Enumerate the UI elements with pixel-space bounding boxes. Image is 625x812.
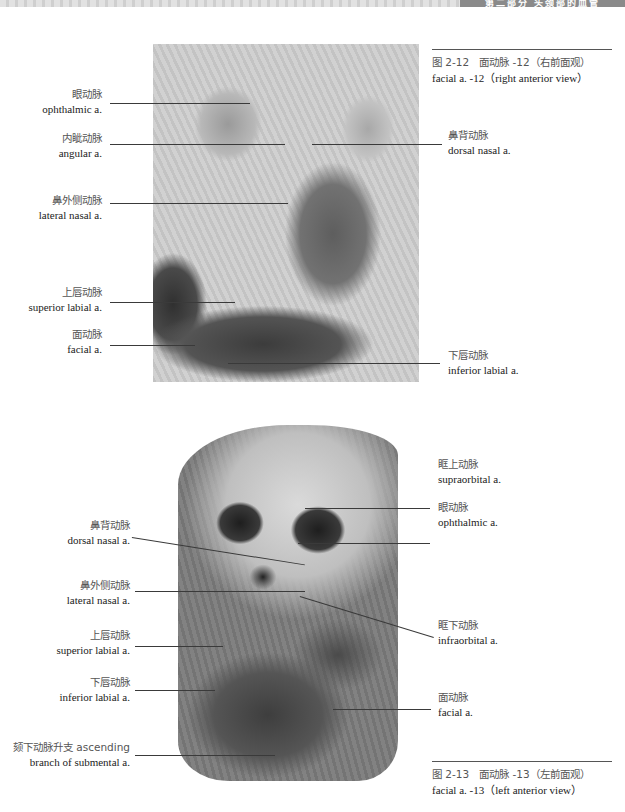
leader-line xyxy=(110,103,250,104)
leader-line xyxy=(135,646,223,647)
leader-line xyxy=(135,755,275,756)
leader-line xyxy=(135,690,215,691)
leader-line xyxy=(305,508,430,509)
leader-line xyxy=(298,543,430,544)
label-superior-labial-2: 上唇动脉 superior labial a. xyxy=(0,628,130,658)
label-dorsal-nasal-2: 鼻背动脉 dorsal nasal a. xyxy=(20,518,130,548)
figure-2-13-caption: 图 2-13 面动脉 -13（左前面观） facial a. -13（left … xyxy=(432,761,612,798)
leader-line xyxy=(312,144,442,145)
figure-2-13-photo xyxy=(178,425,398,781)
label-facial-2: 面动脉 facial a. xyxy=(438,690,598,720)
leader-line xyxy=(110,302,235,303)
leader-line xyxy=(333,709,431,710)
caption-rule xyxy=(432,761,612,762)
leader-line xyxy=(110,203,288,204)
label-dorsal-nasal: 鼻背动脉 dorsal nasal a. xyxy=(448,128,598,158)
label-lateral-nasal: 鼻外侧动脉 lateral nasal a. xyxy=(10,193,102,223)
label-ophthalmic: 眼动脉 ophthalmic a. xyxy=(20,87,102,117)
label-facial: 面动脉 facial a. xyxy=(20,327,102,357)
label-ophthalmic-2: 眼动脉 ophthalmic a. xyxy=(438,500,598,530)
leader-line xyxy=(110,144,285,145)
figure-2-12-photo xyxy=(153,44,419,382)
caption-rule xyxy=(432,49,612,50)
label-superior-labial: 上唇动脉 superior labial a. xyxy=(0,285,102,315)
label-angular: 内眦动脉 angular a. xyxy=(20,131,102,161)
leader-line xyxy=(110,345,195,346)
leader-line xyxy=(135,591,305,592)
running-header-title: 第二部分 头颈部的血管 xyxy=(460,0,625,7)
label-lateral-nasal-2: 鼻外侧动脉 lateral nasal a. xyxy=(10,578,130,608)
leader-line xyxy=(228,363,440,364)
label-inferior-labial-2: 下唇动脉 inferior labial a. xyxy=(0,675,130,705)
label-infraorbital: 眶下动脉 infraorbital a. xyxy=(438,618,598,648)
figure-2-12-caption: 图 2-12 面动脉 -12（右前面观） facial a. -12（right… xyxy=(432,49,612,86)
label-supraorbital: 眶上动脉 supraorbital a. xyxy=(438,457,598,487)
label-submental-ascending-branch: 颏下动脉升支 ascending branch of submental a. xyxy=(0,740,130,770)
label-inferior-labial: 下唇动脉 inferior labial a. xyxy=(448,348,598,378)
